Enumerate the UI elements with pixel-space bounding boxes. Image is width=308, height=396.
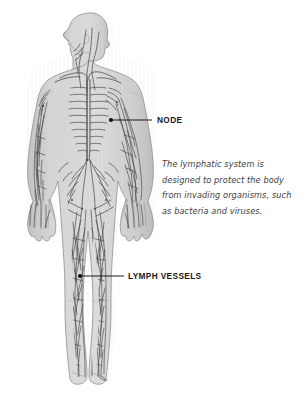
description-paragraph: The lymphatic system is designed to prot…: [162, 157, 302, 219]
callout-label-node: NODE: [157, 116, 182, 125]
description-line-3: from invading organisms, such: [162, 188, 302, 204]
body-silhouette: [28, 10, 154, 390]
callout-label-lymph-vessels: LYMPH VESSELS: [128, 272, 201, 281]
description-line-2: designed to protect the body: [162, 173, 302, 189]
description-line-4: as bacteria and viruses.: [162, 204, 302, 220]
description-line-1: The lymphatic system is: [162, 157, 302, 173]
